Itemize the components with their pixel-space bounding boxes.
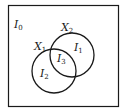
circle-x1: [32, 49, 76, 93]
label-i2: I2: [39, 67, 49, 81]
label-x1: X1: [33, 40, 46, 54]
label-x2: X2: [60, 21, 73, 35]
venn-diagram: I0 X2 X1 I1 I3 I2: [0, 0, 126, 112]
label-i1: I1: [73, 41, 83, 55]
label-i3: I3: [56, 52, 66, 66]
label-i0: I0: [13, 18, 23, 32]
